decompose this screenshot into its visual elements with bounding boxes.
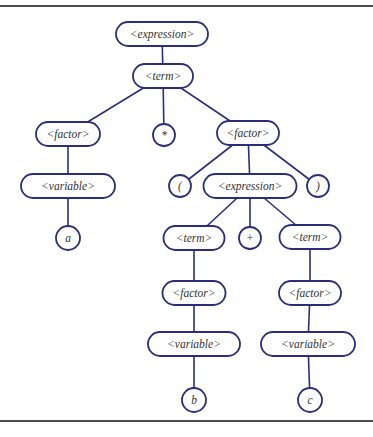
node-c: c: [298, 388, 322, 412]
node-expr2: <expression>: [204, 174, 297, 198]
node-label-variable: <variable>: [281, 338, 335, 350]
node-label-variable: <variable>: [167, 338, 221, 350]
node-factorRR: <factor>: [279, 281, 341, 305]
node-label-term: <term>: [292, 231, 329, 243]
tree-nodes: <expression><term><factor>*<factor><vari…: [21, 22, 355, 412]
node-star: *: [153, 124, 175, 146]
node-label-factor: <factor>: [289, 287, 332, 300]
node-varRR: <variable>: [261, 332, 355, 356]
node-label-a: a: [65, 232, 71, 244]
node-termL: <term>: [164, 226, 225, 250]
node-a: a: [56, 226, 80, 250]
node-rparen: ): [307, 175, 329, 197]
node-label-expression: <expression>: [218, 180, 282, 193]
node-label-c: c: [307, 394, 312, 406]
node-label-expression: <expression>: [130, 28, 194, 41]
node-lparen: (: [169, 175, 191, 197]
node-b: b: [182, 388, 206, 412]
node-factorR: <factor>: [217, 121, 279, 145]
node-factorL: <factor>: [36, 122, 100, 146]
node-label-b: b: [191, 394, 197, 406]
node-expr1: <expression>: [116, 22, 208, 46]
node-factorLL: <factor>: [163, 281, 226, 305]
node-label-term: <term>: [145, 70, 182, 82]
node-label-symbol: *: [161, 129, 167, 141]
node-label-symbol: ): [315, 180, 320, 193]
node-termR: <term>: [280, 225, 341, 249]
node-varL: <variable>: [21, 174, 115, 198]
node-varLL: <variable>: [148, 332, 240, 356]
node-label-factor: <factor>: [173, 287, 216, 300]
node-label-term: <term>: [176, 232, 213, 244]
node-label-variable: <variable>: [41, 180, 95, 192]
parse-tree-diagram: <expression><term><factor>*<factor><vari…: [0, 0, 373, 437]
node-term1: <term>: [133, 64, 193, 88]
node-plus: +: [239, 227, 261, 249]
node-label-symbol: +: [246, 232, 254, 244]
node-label-factor: <factor>: [47, 128, 90, 141]
node-label-factor: <factor>: [227, 127, 270, 140]
